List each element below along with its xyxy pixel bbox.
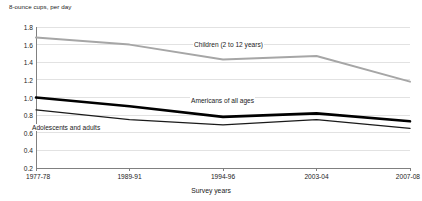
series-annotation-2: Adolescents and adults <box>31 124 101 131</box>
y-axis-tick-label: 1.0 <box>3 94 33 101</box>
y-axis-tick-labels: 0.20.40.60.81.01.21.41.61.8 <box>0 27 33 168</box>
y-axis-tick-label: 0.6 <box>3 129 33 136</box>
y-axis-tick-label: 1.8 <box>3 24 33 31</box>
y-axis-caption: 8-ounce cups, per day <box>9 3 71 10</box>
x-axis-tick-label: 1977-78 <box>26 173 50 180</box>
series-annotation-1: Americans of all ages <box>190 97 255 104</box>
y-axis-tick-label: 0.4 <box>3 147 33 154</box>
x-axis-title: Survey years <box>0 187 422 194</box>
y-axis-tick-label: 1.2 <box>3 76 33 83</box>
x-axis-tick-label: 2007-08 <box>396 173 420 180</box>
y-axis-tick-label: 1.6 <box>3 41 33 48</box>
y-axis-tick-label: 1.4 <box>3 59 33 66</box>
y-axis-tick-label: 0.8 <box>3 112 33 119</box>
x-axis-tick-label: 1994-96 <box>211 173 235 180</box>
x-axis-tick-label: 1989-91 <box>117 173 141 180</box>
y-axis-tick-label: 0.2 <box>3 165 33 172</box>
line-chart: 8-ounce cups, per day 0.20.40.60.81.01.2… <box>0 0 422 201</box>
series-annotation-0: Children (2 to 12 years) <box>193 41 264 48</box>
x-axis-tick-label: 2003-04 <box>304 173 328 180</box>
